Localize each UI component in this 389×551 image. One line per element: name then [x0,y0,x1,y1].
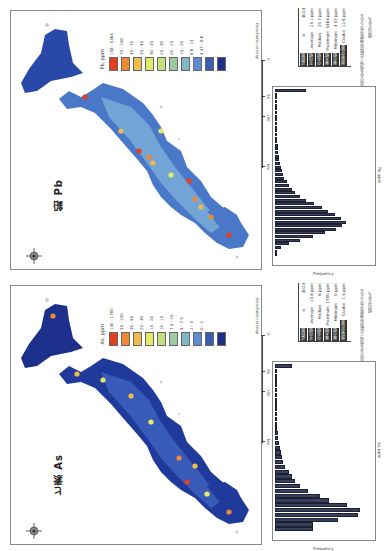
histogram-bar [275,180,287,183]
stats-value: 25.1 ppm [309,8,314,27]
scale-tick-label: 0 [266,333,271,336]
legend-swatch [133,332,142,346]
histogram-bar [275,129,277,132]
histogram-bar [275,151,278,154]
stats-row: 最大値Maximum5364 ppm [324,8,331,66]
legend-class-label: 2 - 5 [189,300,196,330]
histogram-bar [275,239,300,242]
stats-symbol: Average [309,307,314,323]
stats-row: 最大値Maximum1700 ppm [324,283,331,341]
histogram-bar [275,100,277,103]
legend-class-label: 15 - 20 [179,25,186,55]
stats-value: 20.7 ppm [317,8,322,27]
stats-symbol: n [301,309,306,312]
stats-value: 3024 [301,283,306,293]
histogram-x-label: Pb, ppm [377,167,382,183]
stats-value: 12.6 ppm [341,8,346,27]
histogram-bar [275,513,358,517]
histogram-bar [275,177,284,180]
north-arrow-icon [25,522,43,540]
note-text: 傾向がある。 [368,283,376,313]
histogram-bar [275,489,308,493]
histogram-bar [275,465,285,469]
stats-symbol: Clarke [341,303,346,316]
legend-swatch [145,57,154,71]
stats-symbol: Average [309,32,314,48]
legend: Pb, ppm158 - 536475 - 15845 - 7535 - 453… [99,23,259,73]
stats-key: 試料数 [300,328,307,341]
stats-value: 0 ppm [333,283,338,296]
histogram-bar [275,378,277,382]
histogram-y-label: Frequency [313,546,334,551]
stats-key: 試料数 [300,53,307,66]
stats-key: 地殻存在度 [340,45,347,66]
histogram-bar [275,224,342,227]
stats-key: 最大値 [324,53,331,66]
legend-swatch [181,332,190,346]
histogram-bar [275,374,277,378]
scale-bar: 050100200 km [262,60,271,168]
stats-row: 最小値Minimum4.57 ppm [332,8,339,66]
pb-panel: 鉛 PbPb, ppm158 - 536475 - 15845 - 7535 -… [0,0,389,274]
stats-key: 平均値 [308,53,315,66]
histogram: FrequencyPb, ppm [272,86,376,266]
stats-key: 最小値 [332,328,339,341]
map-frame: 鉛 PbPb, ppm158 - 536475 - 15845 - 7535 -… [10,10,262,270]
legend-swatch [121,332,130,346]
histogram-bar [275,202,314,205]
legend-swatch [181,57,190,71]
legend-swatch [133,57,142,71]
legend-class-label: 15 - 20 [149,300,156,330]
legend-swatch [193,332,202,346]
histogram-bar [275,253,277,256]
legend-swatch [205,57,214,71]
element-title: 鉛 Pb [51,179,65,211]
histogram-bar [275,450,281,454]
legend-swatch [205,332,214,346]
as-panel: ヒ素 AsAs, ppm150 - 170055 - 15030 - 5520 … [0,275,389,549]
stats-value: 1.5 ppm [341,283,346,300]
histogram-bar [275,126,277,129]
legend-class-label: 55 - 150 [119,300,126,330]
legend-class-label: 20 - 30 [139,300,146,330]
note-text: 鉱床のある地域で比較的高濃度が見られる [360,8,368,90]
scale-tick-label: 0 [266,58,271,61]
legend-class-label: 0 - 2 [199,300,206,330]
stats-row: 地殻存在度Clarke1.5 ppm [340,283,347,341]
scale-tick-label: 50 [266,94,271,99]
scale-tick-label: 50 [266,369,271,374]
histogram-bar [275,147,278,150]
histogram-bar [275,250,277,253]
histogram-bar [275,503,347,507]
histogram-bar [275,369,277,373]
stats-key: 地殻存在度 [340,320,347,341]
histogram-bar [275,235,313,238]
histogram-bar [275,206,322,209]
stats-symbol: Minimum [333,303,338,322]
histogram-bar [275,115,277,118]
histogram: FrequencyAs, ppm [272,361,376,541]
stats-symbol: Clarke [341,30,346,43]
stats-row: 地殻存在度Clarke12.6 ppm [340,8,347,66]
histogram-bar [275,412,277,416]
histogram-bar [275,426,277,430]
histogram-bar [275,431,278,435]
stats-row: 試料数n3024 [300,8,307,66]
histogram-bar [275,484,300,488]
legend-swatch [193,57,202,71]
legend-class-label: 75 - 158 [119,25,126,55]
histogram-bar [275,527,313,531]
histogram-bar [275,231,325,234]
stats-row: 平均値Average13.8 ppm [308,283,315,341]
stats-value: 13.8 ppm [309,283,314,302]
histogram-bar [275,441,279,445]
stats-value: 3024 [301,8,306,18]
legend-swatch [157,332,166,346]
legend: As, ppm150 - 170055 - 15030 - 5520 - 301… [99,298,259,348]
legend-swatch [145,332,154,346]
histogram-bar [275,199,306,202]
histogram-bar [275,118,277,121]
legend-unit: Pb, ppm [99,49,105,70]
histogram-bar [275,364,292,368]
legend-class-label: 8.6 - 15 [189,25,196,55]
